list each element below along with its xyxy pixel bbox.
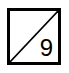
numbered-tile: 9	[7, 8, 61, 65]
tile-number: 9	[40, 36, 53, 60]
